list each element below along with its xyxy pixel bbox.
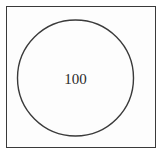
- circle-diagram: 100: [0, 0, 161, 156]
- circle-value-label: 100: [64, 71, 87, 87]
